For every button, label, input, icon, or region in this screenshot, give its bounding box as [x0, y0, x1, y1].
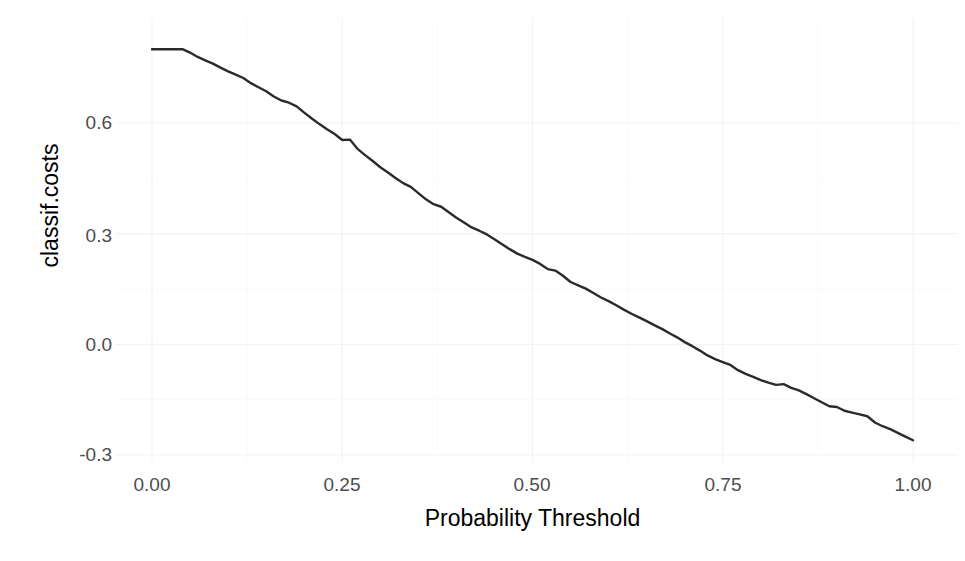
y-tick-label-2: 0.0	[0, 334, 112, 356]
x-tick-label-1: 0.25	[324, 474, 361, 496]
x-tick-label-0: 0.00	[134, 474, 171, 496]
y-axis-title: classif.costs	[37, 96, 64, 316]
grid-lines	[115, 18, 958, 462]
chart-figure: 0.6 0.3 0.0 -0.3 0.00 0.25 0.50 0.75 1.0…	[0, 0, 965, 561]
y-tick-label-3: -0.3	[0, 444, 112, 466]
x-axis-title: Probability Threshold	[152, 505, 913, 532]
x-tick-label-4: 1.00	[895, 474, 932, 496]
x-tick-label-3: 0.75	[705, 474, 742, 496]
x-tick-label-2: 0.50	[514, 474, 551, 496]
